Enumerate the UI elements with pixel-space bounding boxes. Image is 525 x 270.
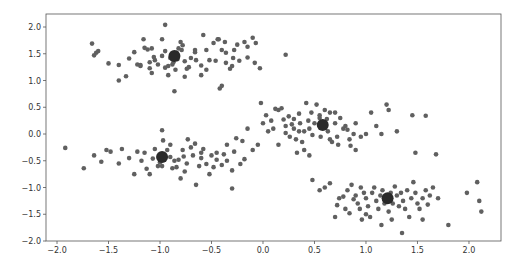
- y-tick-label: −2.0: [22, 237, 41, 246]
- x-tick-label: 1.0: [360, 246, 373, 255]
- data-point: [245, 55, 250, 60]
- data-point: [415, 201, 420, 206]
- data-point: [345, 188, 350, 193]
- data-point: [207, 172, 212, 177]
- data-point: [214, 150, 219, 155]
- data-point: [63, 146, 68, 151]
- data-point: [347, 211, 352, 216]
- data-point: [386, 108, 391, 113]
- centroid-marker: [382, 192, 394, 204]
- data-point: [184, 161, 189, 166]
- data-point: [341, 194, 346, 199]
- data-point: [117, 78, 122, 83]
- data-point: [250, 148, 255, 153]
- data-point: [359, 185, 364, 190]
- data-point: [99, 160, 104, 165]
- data-point: [204, 68, 209, 73]
- data-point: [302, 129, 307, 134]
- data-point: [372, 185, 377, 190]
- data-point: [353, 193, 358, 198]
- data-point: [189, 145, 194, 150]
- data-point: [298, 121, 303, 126]
- data-point: [242, 157, 247, 162]
- data-point: [179, 48, 184, 53]
- data-point: [231, 56, 236, 61]
- data-point: [209, 153, 214, 158]
- data-point: [199, 73, 204, 78]
- data-point: [90, 41, 95, 46]
- data-point: [364, 132, 369, 137]
- data-point: [230, 168, 235, 173]
- centroid-marker: [168, 50, 180, 62]
- data-point: [436, 196, 441, 201]
- data-point: [379, 132, 384, 137]
- data-point: [194, 183, 199, 188]
- data-point: [232, 48, 237, 53]
- data-point: [168, 155, 173, 160]
- data-point: [283, 124, 288, 129]
- data-point: [245, 126, 250, 131]
- data-point: [420, 217, 425, 222]
- x-tick-label: −1.0: [150, 246, 169, 255]
- data-point: [170, 62, 175, 67]
- data-point: [252, 61, 257, 66]
- data-point: [286, 114, 291, 119]
- data-point: [297, 129, 302, 134]
- data-point: [135, 149, 140, 154]
- data-point: [127, 56, 132, 61]
- data-point: [281, 117, 286, 122]
- data-point: [348, 143, 353, 148]
- data-point: [199, 156, 204, 161]
- data-point: [187, 65, 192, 70]
- data-point: [349, 183, 354, 188]
- x-tick-label: −2.0: [47, 246, 66, 255]
- data-point: [147, 172, 152, 177]
- x-tick-label: 0.0: [257, 246, 270, 255]
- data-point: [149, 71, 154, 76]
- data-point: [225, 142, 230, 147]
- data-point: [160, 54, 165, 59]
- points-layer: [63, 23, 484, 236]
- y-tick-label: 1.0: [28, 77, 41, 86]
- data-point: [242, 40, 247, 45]
- data-point: [338, 116, 343, 121]
- data-point: [279, 106, 284, 111]
- data-point: [225, 158, 230, 163]
- data-point: [199, 150, 204, 155]
- data-point: [224, 50, 229, 55]
- data-point: [307, 153, 312, 158]
- data-point: [238, 162, 243, 167]
- data-point: [132, 50, 137, 55]
- data-point: [405, 188, 410, 193]
- data-point: [304, 101, 309, 106]
- data-point: [314, 102, 319, 107]
- data-point: [380, 188, 385, 193]
- data-point: [283, 53, 288, 58]
- data-point: [360, 217, 365, 222]
- data-point: [92, 153, 97, 158]
- data-point: [234, 136, 239, 141]
- data-point: [161, 138, 166, 143]
- data-point: [477, 199, 482, 204]
- data-point: [407, 215, 412, 220]
- data-point: [333, 215, 338, 220]
- x-tick-label: −0.5: [202, 246, 221, 255]
- data-point: [309, 110, 314, 115]
- data-point: [132, 172, 137, 177]
- data-point: [138, 63, 143, 68]
- data-point: [292, 117, 297, 122]
- data-point: [256, 142, 261, 147]
- data-point: [336, 142, 341, 147]
- data-point: [434, 152, 439, 157]
- data-point: [328, 137, 333, 142]
- data-point: [431, 185, 436, 190]
- data-point: [240, 139, 245, 144]
- data-point: [322, 185, 327, 190]
- data-point: [410, 113, 415, 118]
- data-point: [223, 40, 228, 45]
- data-point: [297, 111, 302, 116]
- data-point: [174, 165, 179, 170]
- data-point: [156, 62, 161, 67]
- data-point: [345, 127, 350, 132]
- data-point: [181, 154, 186, 159]
